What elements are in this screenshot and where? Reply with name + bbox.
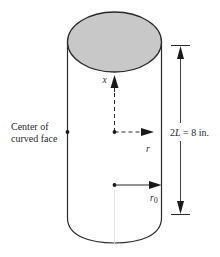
x-arrowhead-icon xyxy=(111,75,119,88)
x-axis-arrow xyxy=(111,75,119,132)
dimension-down-arrow-icon xyxy=(177,201,184,214)
dimension-up-arrow-icon xyxy=(177,46,184,59)
x-axis-label: x xyxy=(102,75,108,85)
r-arrowhead-icon xyxy=(141,128,154,136)
center-label-line1: Center of xyxy=(11,121,49,132)
curved-face-center-point xyxy=(66,130,70,134)
cylinder-diagram: Center of curved face x r r0 2L = 8 in. xyxy=(0,0,220,257)
cylinder-top-face xyxy=(68,12,162,72)
dimension-rest: = 8 in. xyxy=(181,127,209,138)
r0-arrowhead-icon xyxy=(149,181,162,189)
center-label-line2: curved face xyxy=(11,133,58,144)
r-axis-label: r xyxy=(146,144,150,154)
dimension-label: 2L = 8 in. xyxy=(170,127,209,138)
r0-label-subscript: 0 xyxy=(154,196,158,205)
r0-label: r0 xyxy=(150,193,158,205)
r-axis-arrow xyxy=(115,128,155,136)
origin-point xyxy=(113,130,117,134)
r0-radius-arrow xyxy=(113,181,162,189)
